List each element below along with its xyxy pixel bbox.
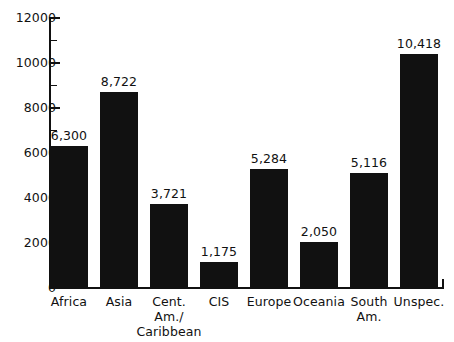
y-axis-minor-tick [51, 40, 57, 41]
bar-value-label: 2,050 [287, 226, 351, 239]
bar-chart: 0200040006000800010000120006,300Africa8,… [0, 0, 454, 342]
y-axis-tick-label: 12000 [16, 12, 56, 25]
bar-value-label: 3,721 [137, 188, 201, 201]
bar-value-label: 5,116 [337, 157, 401, 170]
bar-value-label: 5,284 [237, 153, 301, 166]
bar-value-label: 10,418 [387, 38, 451, 51]
bar [200, 262, 238, 288]
x-axis-end-tick [442, 279, 444, 288]
y-axis-tick-label: 10000 [16, 57, 56, 70]
bar [300, 242, 338, 288]
bar-value-label: 6,300 [37, 130, 101, 143]
bar [400, 54, 438, 288]
x-axis-category-label: Unspec. [383, 294, 454, 309]
y-axis-minor-tick [51, 85, 57, 86]
bar [250, 169, 288, 288]
bar [150, 204, 188, 288]
bar [50, 146, 88, 288]
bar [100, 92, 138, 288]
bar-value-label: 1,175 [187, 246, 251, 259]
bar-value-label: 8,722 [87, 76, 151, 89]
y-axis-tick-label: 8000 [24, 102, 56, 115]
bar [350, 173, 388, 288]
